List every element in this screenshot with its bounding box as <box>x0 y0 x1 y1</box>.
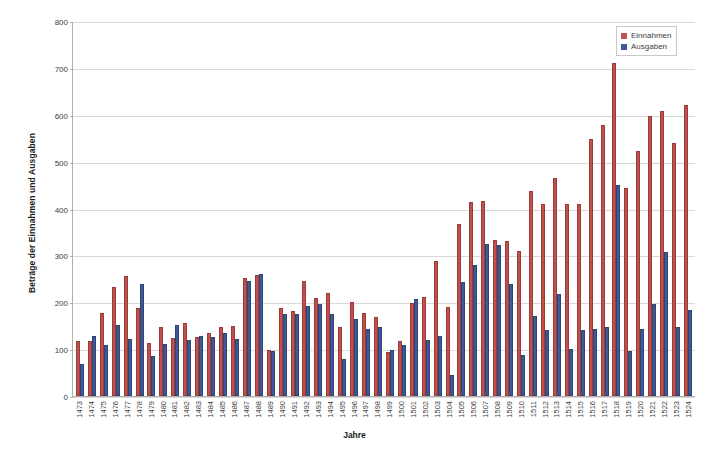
bar-ausgaben <box>223 333 227 396</box>
x-axis-tick-label: 1512 <box>540 401 549 418</box>
x-axis-tick-cell: 1524 <box>682 399 694 431</box>
x-axis-tick-label: 1500 <box>397 401 406 418</box>
x-axis-tick-cell: 1520 <box>634 399 646 431</box>
x-axis-tick-label: 1492 <box>301 401 310 418</box>
x-axis-tick-label: 1481 <box>170 401 179 418</box>
x-axis-tick-cell: 1510 <box>515 399 527 431</box>
x-axis-tick-cell: 1476 <box>109 399 121 431</box>
bar-ausgaben <box>426 340 430 396</box>
bar-group <box>491 22 503 396</box>
x-axis-tick-label: 1491 <box>289 401 298 418</box>
bar-group <box>157 22 169 396</box>
bar-group <box>348 22 360 396</box>
x-axis-tick-cell: 1478 <box>133 399 145 431</box>
x-axis-tick-cell: 1509 <box>503 399 515 431</box>
x-axis-tick-cell: 1508 <box>491 399 503 431</box>
x-axis-tick-cell: 1494 <box>324 399 336 431</box>
x-axis-tick-cell: 1521 <box>646 399 658 431</box>
bar-ausgaben <box>163 344 167 396</box>
bar-ausgaben <box>581 330 585 396</box>
x-axis-tick-cell: 1497 <box>360 399 372 431</box>
bar-ausgaben <box>259 274 263 396</box>
bar-ausgaben <box>211 337 215 396</box>
plot-area: 0100200300400500600700800 <box>72 22 695 397</box>
bar-ausgaben <box>390 350 394 396</box>
y-axis-tick-label: 200 <box>55 299 68 308</box>
x-axis-tick-label: 1522 <box>659 401 668 418</box>
bar-ausgaben <box>366 329 370 396</box>
x-axis-tick-label: 1520 <box>636 401 645 418</box>
y-axis-tick-label: 100 <box>55 346 68 355</box>
x-axis-tick-label: 1478 <box>134 401 143 418</box>
bar-group <box>563 22 575 396</box>
x-axis-tick-label: 1484 <box>206 401 215 418</box>
bar-ausgaben <box>271 351 275 396</box>
x-axis-tick-label: 1473 <box>74 401 83 418</box>
bar-group <box>324 22 336 396</box>
x-axis-tick-cell: 1482 <box>180 399 192 431</box>
x-axis-tick-cell: 1492 <box>300 399 312 431</box>
x-axis-tick-label: 1477 <box>122 401 131 418</box>
x-axis-tick-cell: 1474 <box>85 399 97 431</box>
gridline <box>73 397 695 398</box>
x-axis-tick-label: 1504 <box>445 401 454 418</box>
x-axis-tick-label: 1482 <box>182 401 191 418</box>
y-axis-title: Beträge der Einnahmen und Ausgaben <box>27 93 37 333</box>
y-axis-tick-label: 400 <box>55 205 68 214</box>
x-axis-tick-cell: 1512 <box>539 399 551 431</box>
bar-ausgaben <box>605 327 609 396</box>
x-axis-tick-label: 1475 <box>98 401 107 418</box>
bar-group <box>336 22 348 396</box>
x-axis-tick-cell: 1498 <box>371 399 383 431</box>
bar-group <box>408 22 420 396</box>
bar-group <box>277 22 289 396</box>
bar-group <box>622 22 634 396</box>
bar-group <box>98 22 110 396</box>
bar-ausgaben <box>688 310 692 396</box>
bar-ausgaben <box>616 185 620 396</box>
bar-ausgaben <box>306 306 310 396</box>
bar-group <box>205 22 217 396</box>
bar-group <box>444 22 456 396</box>
bar-ausgaben <box>235 339 239 396</box>
bar-ausgaben <box>283 314 287 396</box>
x-axis-tick-label: 1515 <box>576 401 585 418</box>
x-axis-tick-cell: 1496 <box>348 399 360 431</box>
x-axis-tick-cell: 1500 <box>395 399 407 431</box>
x-axis-tick-label: 1497 <box>361 401 370 418</box>
x-axis-tick-label: 1508 <box>492 401 501 418</box>
x-axis-tick-cell: 1491 <box>288 399 300 431</box>
x-axis-tick-label: 1490 <box>277 401 286 418</box>
bar-group <box>646 22 658 396</box>
bar-ausgaben <box>318 304 322 396</box>
x-axis-tick-label: 1514 <box>564 401 573 418</box>
bar-group <box>682 22 694 396</box>
x-axis-tick-cell: 1505 <box>455 399 467 431</box>
bar-group <box>396 22 408 396</box>
x-axis-tick-label: 1506 <box>468 401 477 418</box>
x-axis-tick-cell: 1485 <box>216 399 228 431</box>
x-axis-tick-cell: 1483 <box>192 399 204 431</box>
x-axis-tick-cell: 1484 <box>204 399 216 431</box>
x-axis-tick-cell: 1503 <box>431 399 443 431</box>
x-axis-tick-label: 1505 <box>456 401 465 418</box>
legend-item-ausgaben: Ausgaben <box>621 41 671 52</box>
bar-group <box>253 22 265 396</box>
bar-ausgaben <box>247 281 251 396</box>
bar-chart: Beträge der Einnahmen und Ausgaben 01002… <box>0 0 709 449</box>
x-axis-tick-cell: 1513 <box>551 399 563 431</box>
bar-group <box>134 22 146 396</box>
x-axis-tick-cell: 1486 <box>228 399 240 431</box>
x-axis-tick-label: 1486 <box>230 401 239 418</box>
y-axis-tick-mark <box>70 397 73 398</box>
x-axis-tick-cell: 1481 <box>169 399 181 431</box>
x-axis-tick-cell: 1523 <box>670 399 682 431</box>
bar-ausgaben <box>450 375 454 396</box>
x-axis-tick-label: 1476 <box>110 401 119 418</box>
x-axis-tick-cell: 1480 <box>157 399 169 431</box>
bar-group <box>503 22 515 396</box>
bar-group <box>193 22 205 396</box>
bar-ausgaben <box>521 355 525 396</box>
bar-ausgaben <box>80 364 84 396</box>
bar-group <box>122 22 134 396</box>
